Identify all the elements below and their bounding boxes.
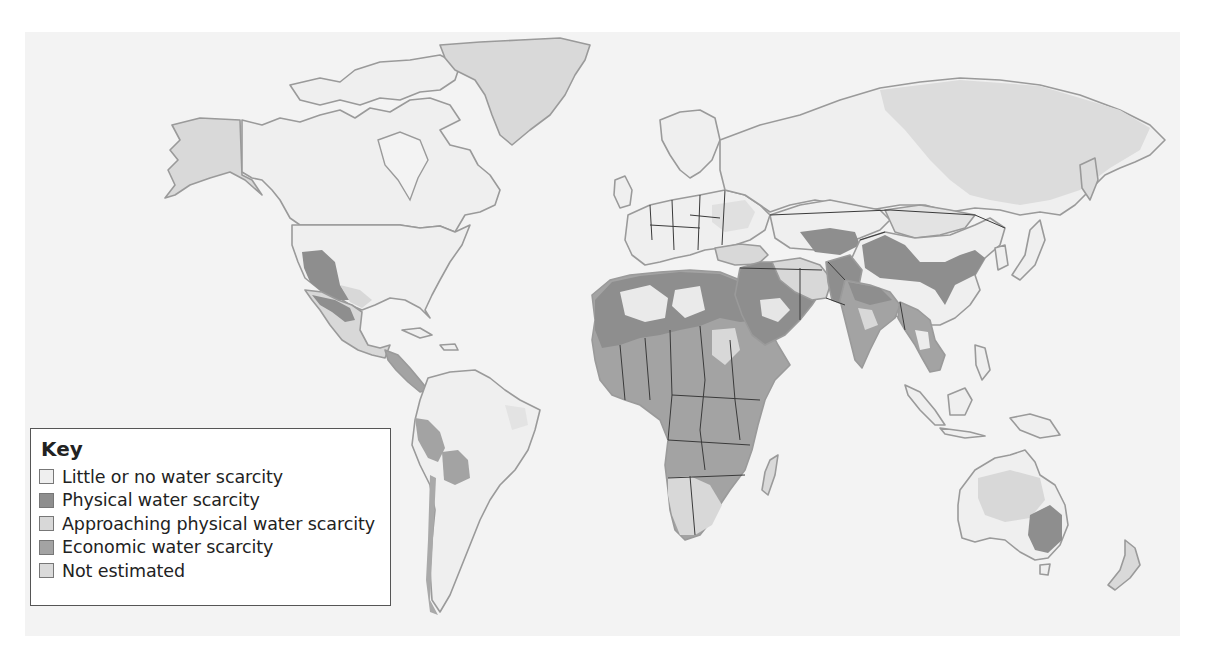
- region-borneo: [948, 388, 972, 415]
- legend-swatch-little: [39, 469, 54, 484]
- legend-title: Key: [41, 437, 390, 461]
- legend: Key Little or no water scarcity Physical…: [30, 428, 391, 606]
- legend-item-physical: Physical water scarcity: [39, 489, 390, 513]
- legend-swatch-physical: [39, 493, 54, 508]
- region-new-guinea: [1010, 414, 1060, 438]
- region-korea: [995, 245, 1008, 270]
- region-sumatra: [905, 385, 945, 425]
- region-uk: [614, 176, 632, 208]
- region-japan: [1012, 220, 1045, 280]
- legend-item-little: Little or no water scarcity: [39, 465, 390, 489]
- region-caribbean: [402, 328, 458, 350]
- legend-label: Approaching physical water scarcity: [62, 514, 375, 534]
- region-canada: [242, 98, 500, 232]
- region-java: [940, 428, 985, 438]
- region-scandinavia: [660, 110, 720, 178]
- legend-swatch-approaching: [39, 516, 54, 531]
- legend-label: Little or no water scarcity: [62, 467, 283, 487]
- region-greenland: [440, 38, 590, 145]
- legend-swatch-not-estimated: [39, 563, 54, 578]
- region-philippines: [975, 345, 990, 380]
- legend-swatch-economic: [39, 540, 54, 555]
- legend-item-not-estimated: Not estimated: [39, 559, 390, 583]
- legend-label: Not estimated: [62, 561, 185, 581]
- legend-label: Physical water scarcity: [62, 490, 260, 510]
- region-new-zealand: [1108, 540, 1140, 590]
- region-madagascar: [762, 455, 778, 495]
- region-tasmania: [1040, 564, 1050, 575]
- region-arctic-islands: [290, 55, 460, 105]
- legend-label: Economic water scarcity: [62, 537, 273, 557]
- legend-item-economic: Economic water scarcity: [39, 536, 390, 560]
- region-central-america: [385, 350, 428, 392]
- region-central-asia-physical: [800, 228, 860, 255]
- legend-item-approaching: Approaching physical water scarcity: [39, 512, 390, 536]
